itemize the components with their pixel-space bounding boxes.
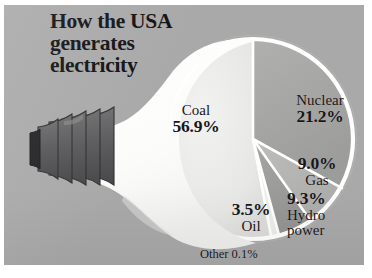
title-line-1: How the USA: [50, 11, 210, 33]
label-other-text: Other 0.1%: [200, 248, 294, 261]
label-coal: Coal 56.9%: [154, 103, 238, 136]
label-hydro-power: 9.3% Hydro power: [287, 190, 349, 238]
label-gas: 9.0% Gas: [286, 155, 348, 188]
label-oil: 3.5% Oil: [220, 201, 282, 234]
label-hydro-value: 9.3%: [287, 190, 349, 208]
label-coal-value: 56.9%: [154, 118, 238, 136]
label-gas-value: 9.0%: [286, 155, 348, 173]
title-line-3: electricity: [50, 55, 210, 77]
title-line-2: generates: [50, 33, 210, 55]
label-oil-value: 3.5%: [220, 201, 282, 219]
label-oil-name: Oil: [220, 219, 282, 234]
label-nuclear: Nuclear 21.2%: [281, 93, 359, 126]
label-nuclear-value: 21.2%: [281, 108, 359, 126]
page-title: How the USA generates electricity: [50, 11, 210, 77]
label-hydro-name-line1: Hydro: [287, 208, 349, 223]
label-other: Other 0.1%: [200, 248, 294, 261]
infographic-poster: How the USA generates electricity Coal 5…: [4, 5, 364, 265]
label-hydro-name-line2: power: [287, 223, 349, 238]
label-gas-name: Gas: [286, 173, 348, 188]
